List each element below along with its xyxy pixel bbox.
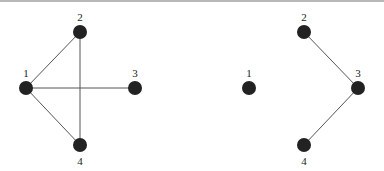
- node-label-2: 2: [77, 11, 83, 23]
- node-label-4: 4: [301, 155, 307, 167]
- edge-1-4: [26, 88, 80, 145]
- node-4: [73, 138, 87, 152]
- edge-2-3: [304, 32, 358, 88]
- node-label-4: 4: [77, 155, 83, 167]
- edge-1-2: [26, 32, 80, 88]
- node-3: [351, 81, 365, 95]
- node-3: [128, 81, 142, 95]
- node-2: [297, 25, 311, 39]
- node-4: [297, 138, 311, 152]
- node-label-1: 1: [246, 67, 252, 79]
- node-2: [73, 25, 87, 39]
- node-1: [242, 81, 256, 95]
- node-label-3: 3: [355, 67, 361, 79]
- right-graph: 1234: [242, 11, 365, 167]
- node-label-2: 2: [301, 11, 307, 23]
- node-label-3: 3: [132, 67, 138, 79]
- node-label-1: 1: [23, 67, 29, 79]
- node-1: [19, 81, 33, 95]
- left-graph: 1234: [19, 11, 142, 167]
- graph-diagram: 12341234: [0, 0, 384, 171]
- edge-3-4: [304, 88, 358, 145]
